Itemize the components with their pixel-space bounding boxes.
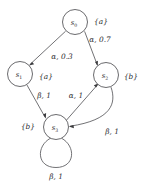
edge-label-s2-to-s3: β, 1 — [104, 127, 119, 136]
edge-label-s1-to-s3: β, 1 — [36, 91, 51, 100]
edge-s3-self-loop-path — [40, 138, 71, 167]
node-s2-atomic-propositions: {b} — [124, 72, 138, 81]
node-s3[interactable]: s3 — [44, 115, 69, 140]
node-s0[interactable]: s0 — [63, 10, 88, 35]
node-s1-atomic-propositions: {a} — [39, 72, 53, 81]
edge-label-s0-to-s1: α, 0.3 — [51, 52, 73, 61]
edge-label-s0-to-s2: α, 0.7 — [89, 35, 111, 44]
node-s2[interactable]: s2 — [94, 63, 119, 88]
graph-canvas: s0 {a} s1 {a} s2 {b} s3 {b} α, 0.3 α, 0.… — [0, 0, 144, 187]
node-s0-atomic-propositions: {a} — [94, 17, 108, 26]
edge-s3-to-s2 — [67, 83, 99, 120]
edge-label-s3-self-loop: β, 1 — [48, 172, 63, 181]
edge-label-s3-to-s2: α, 1 — [69, 91, 83, 100]
node-s3-atomic-propositions: {b} — [21, 122, 35, 131]
node-s1[interactable]: s1 — [8, 62, 33, 87]
state-transition-diagram: s0 {a} s1 {a} s2 {b} s3 {b} α, 0.3 α, 0.… — [0, 0, 144, 187]
